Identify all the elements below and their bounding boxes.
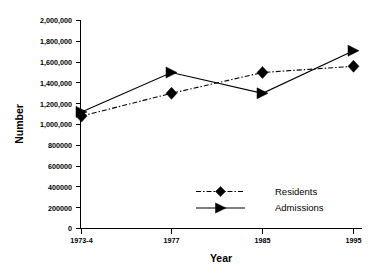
y-tick-label-4: 800000 xyxy=(48,141,72,150)
y-tick-label-7: 1,400,000 xyxy=(40,79,72,88)
x-tick-label-3: 1995 xyxy=(346,236,362,245)
x-tick-label-0: 1973-4 xyxy=(70,236,92,245)
legend-label-residents: Residents xyxy=(275,186,317,197)
x-tick-label-2: 1985 xyxy=(255,236,271,245)
y-tick-label-3: 600000 xyxy=(48,162,72,171)
y-tick-label-9: 1,800,000 xyxy=(40,37,72,46)
y-tick-label-6: 1,200,000 xyxy=(40,100,72,109)
y-axis-title: Number xyxy=(13,104,25,144)
y-tick-label-8: 1,600,000 xyxy=(40,58,72,67)
x-tick-label-1: 1977 xyxy=(164,236,180,245)
y-tick-label-5: 1,000,000 xyxy=(40,120,72,129)
x-axis-title: Year xyxy=(210,252,232,264)
y-tick-label-10: 2,000,000 xyxy=(40,16,72,25)
legend-label-admissions: Admissions xyxy=(275,202,324,213)
y-tick-label-2: 400000 xyxy=(48,183,72,192)
chart-figure: 0 200000 400000 600000 800000 1,000,000 … xyxy=(0,0,376,272)
y-tick-label-1: 200000 xyxy=(48,204,72,213)
y-tick-label-0: 0 xyxy=(68,224,72,233)
line-chart: 0 200000 400000 600000 800000 1,000,000 … xyxy=(0,0,376,272)
